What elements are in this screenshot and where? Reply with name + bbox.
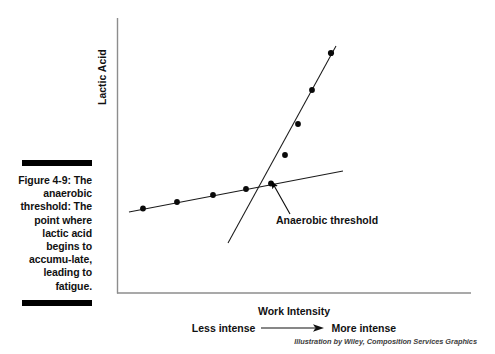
chart-axes — [117, 18, 471, 294]
chart-svg — [0, 0, 495, 354]
figure-container: Figure 4-9: The anaerobic threshold: The… — [0, 0, 495, 354]
shallow-trend-line — [129, 171, 343, 212]
annotation-arrow-icon — [272, 182, 290, 214]
data-points-baseline — [140, 186, 249, 211]
x-axis-intensity-scale: Less intense More intense — [117, 322, 471, 334]
data-point — [282, 152, 288, 158]
data-points-anaerobic — [268, 50, 334, 187]
chart-plot-area: Lactic Acid Anaerobic threshold Work Int… — [0, 0, 495, 354]
x-axis-less-intense-label: Less intense — [192, 322, 256, 334]
data-point — [140, 206, 146, 212]
data-point — [174, 199, 180, 205]
data-point — [243, 186, 249, 192]
y-axis-label: Lactic Acid — [96, 49, 108, 105]
data-point — [210, 192, 216, 198]
right-arrow-icon — [261, 323, 325, 333]
data-point — [295, 121, 301, 127]
data-point — [328, 50, 334, 56]
anaerobic-threshold-annotation: Anaerobic threshold — [276, 214, 378, 226]
x-axis-label: Work Intensity — [117, 305, 471, 317]
data-point — [309, 87, 315, 93]
illustration-credit: Illustration by Wiley, Composition Servi… — [294, 337, 477, 346]
x-axis-more-intense-label: More intense — [331, 322, 396, 334]
